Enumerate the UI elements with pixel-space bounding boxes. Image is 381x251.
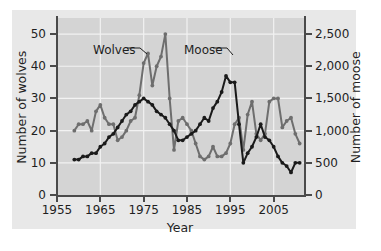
x-axis-tick xyxy=(99,195,101,202)
y-axis-right-tick xyxy=(305,194,312,196)
y-axis-right-spine xyxy=(304,16,306,197)
y-axis-left-spine xyxy=(56,16,58,197)
chart-figure: 01020304050 05001,0001,5002,0002,500 195… xyxy=(0,0,381,251)
y-axis-left-tick xyxy=(50,97,57,99)
x-axis-tick xyxy=(273,195,275,202)
annotation-wolves: Wolves xyxy=(93,44,136,56)
y-axis-right-tick xyxy=(305,130,312,132)
y-axis-right-tick xyxy=(305,65,312,67)
y-axis-left-tick xyxy=(50,33,57,35)
x-axis-title: Year xyxy=(120,222,240,235)
x-axis-tick xyxy=(56,195,58,202)
y-axis-right-tick xyxy=(305,162,312,164)
y-axis-right-title: Number of moose xyxy=(350,42,363,172)
y-axis-left-tick-label: 50 xyxy=(0,28,46,40)
x-axis-tick-label: 2005 xyxy=(244,204,304,216)
y-axis-right-tick-label: 1,000 xyxy=(315,125,349,137)
y-axis-right-tick xyxy=(305,33,312,35)
y-axis-right-tick-label: 2,500 xyxy=(315,28,349,40)
y-axis-right-tick-label: 500 xyxy=(315,157,338,169)
x-axis-tick xyxy=(229,195,231,202)
y-axis-left-tick xyxy=(50,65,57,67)
y-axis-left-tick xyxy=(50,130,57,132)
y-axis-right-tick-label: 0 xyxy=(315,189,323,201)
y-axis-right-tick-label: 2,000 xyxy=(315,60,349,72)
y-axis-left-tick xyxy=(50,162,57,164)
y-axis-right-tick xyxy=(305,97,312,99)
x-axis-tick xyxy=(143,195,145,202)
y-axis-left-tick-label: 0 xyxy=(0,189,46,201)
y-axis-left-title: Number of wolves xyxy=(16,42,29,172)
annotation-moose: Moose xyxy=(184,44,223,56)
x-axis-tick xyxy=(186,195,188,202)
x-axis-spine xyxy=(56,195,306,197)
y-axis-right-tick-label: 1,500 xyxy=(315,92,349,104)
